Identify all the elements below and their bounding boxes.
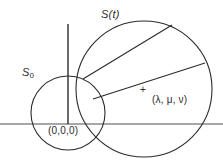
point-coordinates-label: (λ, μ, ν)	[152, 95, 187, 105]
large-sphere-label: S(t)	[101, 9, 120, 20]
origin-label: (0,0,0)	[48, 126, 78, 136]
ray-upper-line	[83, 25, 172, 79]
small-sphere-label: S0	[22, 67, 34, 80]
small-sphere-label-subscript: 0	[30, 71, 35, 80]
figure-canvas	[0, 0, 223, 164]
ray-lower-line	[93, 63, 205, 99]
small-sphere-label-base: S	[22, 66, 30, 78]
sphere-expansion-figure: S(t) S0 (0,0,0) + (λ, μ, ν)	[0, 0, 223, 164]
point-marker-plus-icon: +	[140, 85, 146, 95]
